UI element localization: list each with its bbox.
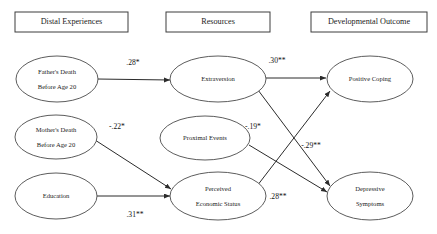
node-ellipse-perceived-economic-status[interactable] — [170, 172, 266, 220]
node-label-fathers-death-line2: Before Age 20 — [38, 83, 77, 90]
node-label-depressive-symptoms-line2: Symptoms — [356, 200, 385, 207]
node-label-extraversion-line1: Extraversion — [201, 75, 235, 82]
column-header-distal: Distal Experiences — [15, 12, 128, 32]
node-label-positive-coping-line1: Positive Coping — [349, 75, 392, 82]
node-label-education-line1: Education — [43, 192, 70, 199]
node-proximal-events[interactable]: Proximal Events — [160, 116, 250, 160]
coefficient-label-p6: .31** — [126, 210, 143, 219]
node-fathers-death[interactable]: Father's Death Before Age 20 — [16, 56, 98, 102]
node-perceived-economic-status[interactable]: Perceived Economic Status — [170, 172, 266, 220]
node-education[interactable]: Education — [15, 173, 97, 219]
node-label-proximal-events-line1: Proximal Events — [183, 134, 227, 141]
coefficient-label-p1: .28* — [126, 58, 139, 67]
header-label-resources: Resources — [201, 17, 235, 26]
node-positive-coping[interactable]: Positive Coping — [327, 56, 413, 102]
node-label-fathers-death-line1: Father's Death — [38, 68, 77, 75]
node-mothers-death[interactable]: Mother's Death Before Age 20 — [15, 115, 97, 159]
path-line-fathers-death-to-extraversion — [97, 79, 170, 80]
node-ellipse-depressive-symptoms[interactable] — [327, 172, 413, 220]
path-diagram-canvas: Distal Experiences Resources Development… — [0, 0, 437, 234]
coefficient-label-p2: .30** — [268, 56, 285, 65]
column-header-resources: Resources — [166, 12, 270, 32]
node-label-perceived-economic-status-line1: Perceived — [205, 185, 232, 192]
node-label-perceived-economic-status-line2: Economic Status — [196, 200, 241, 207]
path-line-mothers-death-to-perceived-economic-status — [95, 140, 171, 189]
path-diagram-svg: Distal Experiences Resources Development… — [0, 0, 437, 234]
node-label-depressive-symptoms-line1: Depressive — [355, 185, 384, 192]
node-label-mothers-death-line1: Mother's Death — [36, 126, 77, 133]
column-header-outcome: Developmental Outcome — [311, 12, 427, 32]
node-ellipse-fathers-death[interactable] — [16, 56, 98, 102]
header-label-outcome: Developmental Outcome — [328, 17, 410, 26]
coefficient-label-p7: .28** — [269, 192, 286, 201]
node-ellipse-mothers-death[interactable] — [15, 115, 97, 159]
coefficient-label-p3: -.22* — [109, 122, 125, 131]
coefficient-label-p5: -.29** — [301, 141, 321, 150]
node-label-mothers-death-line2: Before Age 20 — [37, 141, 76, 148]
coefficient-label-p4: -.19* — [245, 122, 261, 131]
header-label-distal: Distal Experiences — [41, 17, 103, 26]
node-depressive-symptoms[interactable]: Depressive Symptoms — [327, 172, 413, 220]
node-extraversion[interactable]: Extraversion — [170, 56, 266, 102]
